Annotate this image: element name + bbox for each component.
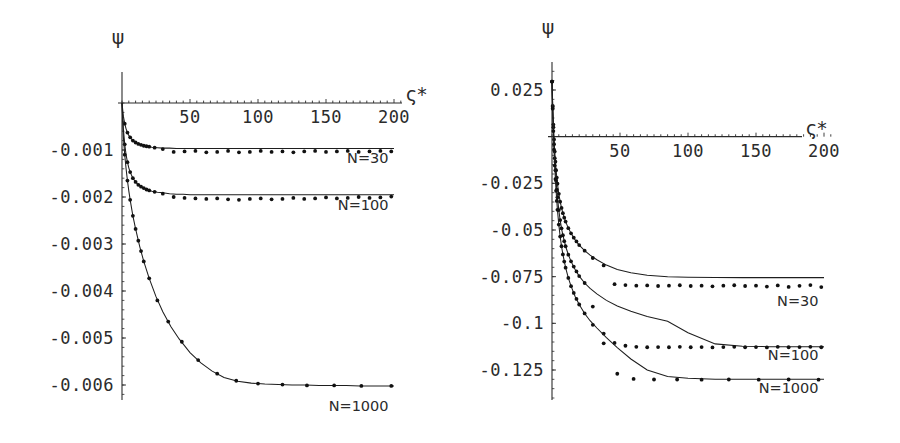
series-marker-dot	[172, 195, 176, 199]
series-marker-dot	[711, 284, 715, 288]
series-marker-dot	[765, 285, 769, 289]
series-marker-dot	[204, 150, 208, 154]
series-marker-dot	[564, 220, 568, 224]
x-tick-label: 100	[242, 107, 274, 127]
series-marker-dot	[153, 190, 157, 194]
series-marker-dot	[126, 179, 130, 183]
series-marker-dot	[552, 148, 556, 152]
series-marker-dot	[591, 305, 595, 309]
series-marker-dot	[335, 150, 339, 154]
series-marker-dot	[131, 214, 135, 218]
series-marker-dot	[324, 150, 328, 154]
series-marker-dot	[126, 131, 130, 135]
series-marker-dot	[624, 283, 628, 287]
y-tick-label: 0.025	[490, 80, 544, 100]
x-axis-title: ς*	[406, 83, 427, 105]
series-marker-dot	[313, 149, 317, 153]
y-tick-label: -0.025	[480, 173, 544, 193]
series-marker-dot	[226, 149, 230, 153]
series-marker-dot	[389, 195, 393, 199]
series-marker-dot	[215, 372, 219, 376]
series-marker-dot	[123, 153, 127, 157]
series-marker-dot	[645, 345, 649, 349]
series-marker-dot	[204, 197, 208, 201]
series-marker-dot	[248, 197, 252, 201]
series-marker-dot	[553, 164, 557, 168]
series-marker-dot	[128, 198, 132, 202]
series-marker-dot	[270, 150, 274, 154]
series-marker-dot	[556, 208, 560, 212]
y-tick-label: -0.004	[50, 281, 114, 301]
series-marker-dot	[558, 235, 562, 239]
series-group: N=30	[550, 80, 824, 309]
series-marker-dot	[577, 274, 581, 278]
series-marker-dot	[237, 150, 241, 154]
series-marker-dot	[566, 276, 570, 280]
series-marker-dot	[634, 284, 638, 288]
y-tick-label: -0.125	[480, 360, 544, 380]
series-marker-dot	[183, 196, 187, 200]
series-marker-dot	[562, 260, 566, 264]
series-marker-dot	[652, 378, 656, 382]
series-marker-dot	[256, 382, 260, 386]
series-marker-dot	[776, 284, 780, 288]
series-marker-dot	[727, 378, 731, 382]
series-marker-dot	[226, 197, 230, 201]
series-marker-dot	[700, 378, 704, 382]
series-marker-dot	[577, 243, 581, 247]
series-marker-dot	[721, 345, 725, 349]
series-marker-dot	[554, 177, 558, 181]
series-marker-dot	[689, 345, 693, 349]
y-axis-title: ψ	[542, 16, 555, 38]
series-marker-dot	[139, 249, 143, 253]
series-marker-dot	[572, 236, 576, 240]
series-marker-dot	[560, 244, 564, 248]
series-marker-dot	[196, 358, 200, 362]
y-tick-label: -0.05	[490, 220, 544, 240]
series-marker-dot	[656, 284, 660, 288]
series-marker-dot	[798, 284, 802, 288]
series-marker-dot	[551, 129, 555, 133]
x-tick-label: 100	[672, 141, 704, 161]
series-marker-dot	[128, 135, 132, 139]
series-marker-dot	[721, 284, 725, 288]
series-marker-dot	[569, 284, 573, 288]
series-marker-dot	[583, 249, 587, 253]
x-axis-title: ς*	[806, 117, 827, 139]
series-marker-dot	[562, 216, 566, 220]
series-marker-dot	[624, 344, 628, 348]
series-marker-dot	[678, 345, 682, 349]
series-marker-dot	[136, 239, 140, 243]
series-marker-dot	[313, 197, 317, 201]
series-marker-dot	[134, 180, 138, 184]
series-marker-dot	[302, 150, 306, 154]
series-label: N=30	[347, 150, 388, 166]
series-marker-dot	[557, 223, 561, 227]
series-curve	[552, 82, 824, 278]
series-marker-dot	[667, 284, 671, 288]
x-tick-label: 150	[740, 141, 772, 161]
series-marker-dot	[155, 299, 159, 303]
series-marker-dot	[183, 150, 187, 154]
y-tick-label: -0.075	[480, 267, 544, 287]
chart-panel-left: 50100150200ς*-0.001-0.002-0.003-0.004-0.…	[0, 0, 450, 443]
y-tick-label: -0.001	[50, 140, 114, 160]
series-marker-dot	[172, 150, 176, 154]
series-marker-dot	[147, 189, 151, 193]
series-curve	[552, 82, 824, 380]
series-marker-dot	[645, 284, 649, 288]
series-marker-dot	[305, 384, 309, 388]
series-marker-dot	[634, 345, 638, 349]
y-tick-label: -0.1	[501, 313, 544, 333]
series-marker-dot	[819, 285, 823, 289]
series-marker-dot	[281, 150, 285, 154]
series-label: N=100	[338, 197, 389, 213]
series-marker-dot	[237, 198, 241, 202]
figure-container: 50100150200ς*-0.001-0.002-0.003-0.004-0.…	[0, 0, 900, 443]
series-marker-dot	[700, 284, 704, 288]
y-tick-label: -0.002	[50, 187, 114, 207]
series-label: N=100	[768, 347, 819, 363]
series-marker-dot	[147, 145, 151, 149]
series-marker-dot	[359, 384, 363, 388]
y-axis-title: ψ	[112, 26, 125, 48]
